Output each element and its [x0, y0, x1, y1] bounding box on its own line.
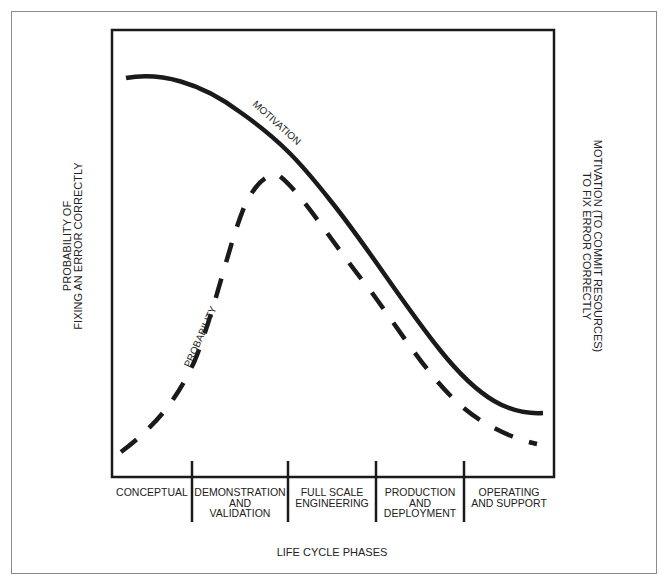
y-axis-right-line1: MOTIVATION (TO COMMIT RESOURCES): [592, 106, 603, 386]
y-axis-left-title: PROBABILITY OF FIXING AN ERROR CORRECTLY: [62, 106, 88, 386]
probability-curve-label: PROBABILITY: [182, 304, 219, 369]
y-axis-left-line2: FIXING AN ERROR CORRECTLY: [73, 106, 84, 386]
phase-label-conceptual: CONCEPTUAL: [112, 487, 192, 498]
y-axis-right-title: MOTIVATION (TO COMMIT RESOURCES) TO FIX …: [577, 106, 603, 386]
x-axis-title: LIFE CYCLE PHASES: [232, 547, 432, 558]
phase-label-production: PRODUCTION AND DEPLOYMENT: [376, 487, 464, 519]
phase-label-operating: OPERATING AND SUPPORT: [464, 487, 554, 508]
phase-label-demonstration: DEMONSTRATION AND VALIDATION: [192, 487, 288, 519]
plot-area-border: [112, 30, 554, 477]
phase-label-full-scale: FULL SCALE ENGINEERING: [288, 487, 376, 508]
y-axis-right-line2: TO FIX ERROR CORRECTLY: [581, 106, 592, 386]
probability-curve: [121, 174, 537, 452]
